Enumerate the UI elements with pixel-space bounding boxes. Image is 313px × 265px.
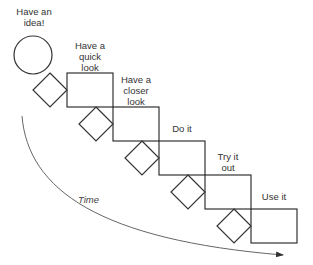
time-label: Time bbox=[78, 194, 99, 205]
step-box-2 bbox=[113, 107, 159, 141]
label-closer-look: Have a closer look bbox=[111, 74, 161, 107]
label-use-it: Use it bbox=[249, 191, 299, 202]
label-have-an-idea: Have an idea! bbox=[8, 6, 60, 28]
diamond-connector-5 bbox=[217, 209, 251, 243]
time-arrow bbox=[22, 116, 283, 255]
step-box-4 bbox=[205, 175, 251, 209]
step-box-3 bbox=[159, 141, 205, 175]
diamond-connector-2 bbox=[79, 107, 113, 141]
label-try-it-out: Try it out bbox=[203, 151, 253, 173]
step-box-5 bbox=[251, 209, 297, 243]
diamond-connector-3 bbox=[125, 141, 159, 175]
label-quick-look: Have a quick look bbox=[65, 40, 115, 73]
diamond-connector-4 bbox=[171, 175, 205, 209]
diamond-connector-1 bbox=[33, 73, 67, 107]
step-box-1 bbox=[67, 73, 113, 107]
idea-circle bbox=[14, 36, 52, 74]
label-do-it: Do it bbox=[157, 123, 207, 134]
